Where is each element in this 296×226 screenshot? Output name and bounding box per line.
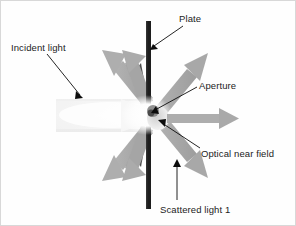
leader-incident-light — [47, 54, 83, 99]
optical-near-field-glow — [121, 95, 173, 135]
transmitted-light-arrow — [167, 108, 239, 129]
label-aperture: Aperture — [199, 80, 236, 91]
label-incident-light: Incident light — [11, 42, 66, 53]
optical-near-field-diagram: Plate Incident light Aperture Optical ne… — [0, 0, 296, 226]
label-optical-near-field: Optical near field — [201, 148, 274, 159]
label-plate: Plate — [179, 13, 201, 24]
diagram-canvas — [1, 1, 296, 226]
label-scattered-light-1: Scattered light 1 — [160, 204, 230, 215]
leader-plate — [150, 26, 183, 50]
leader-scattered-light-1 — [173, 159, 181, 200]
